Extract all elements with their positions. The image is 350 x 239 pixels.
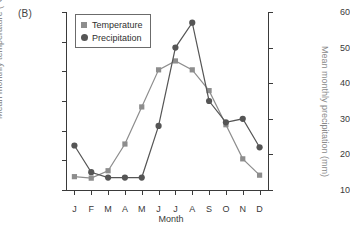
x-tick-label: N — [240, 204, 247, 214]
data-point-precipitation-M-2 — [105, 174, 111, 180]
y-tick-right — [269, 48, 273, 49]
y-tick-label-right: 20 — [340, 149, 350, 159]
x-tick-label: S — [206, 204, 212, 214]
legend-label-temperature: Temperature — [92, 20, 143, 30]
data-point-temperature-A-7 — [190, 67, 195, 72]
data-point-precipitation-F-1 — [88, 169, 94, 175]
x-tick — [159, 191, 160, 195]
chart-legend: Temperature Precipitation — [75, 14, 151, 48]
x-axis-title: Month — [0, 214, 342, 224]
x-tick — [192, 191, 193, 195]
y-tick-label-right: 50 — [340, 43, 350, 53]
x-tick-label: A — [189, 204, 195, 214]
y-tick-label-right: 60 — [340, 7, 350, 17]
panel-label: (B) — [18, 8, 32, 19]
x-tick-label: O — [222, 204, 229, 214]
y-tick-right — [269, 119, 273, 120]
legend-label-precipitation: Precipitation — [92, 33, 142, 43]
data-point-temperature-A-3 — [122, 141, 127, 146]
x-tick — [226, 191, 227, 195]
series-line-temperature — [74, 61, 259, 178]
x-tick-label: D — [256, 204, 263, 214]
x-tick — [108, 191, 109, 195]
x-tick-label: A — [122, 204, 128, 214]
data-point-temperature-J-5 — [156, 67, 161, 72]
x-tick — [142, 191, 143, 195]
square-marker-icon — [81, 22, 87, 28]
data-point-temperature-D-11 — [257, 173, 262, 178]
x-tick — [125, 191, 126, 195]
x-axis-line — [66, 190, 269, 191]
legend-item-temperature: Temperature — [81, 18, 143, 31]
y-tick-right — [269, 190, 273, 191]
y-axis-right-line — [268, 12, 269, 190]
x-tick — [209, 191, 210, 195]
data-point-precipitation-S-8 — [206, 98, 212, 104]
x-tick — [243, 191, 244, 195]
y-tick-label-right: 10 — [340, 185, 350, 195]
y-axis-left-title: Mean monthly temperature (°C) — [0, 0, 5, 119]
x-tick-label: J — [156, 204, 161, 214]
y-tick-right — [269, 12, 273, 13]
x-tick — [175, 191, 176, 195]
data-point-temperature-F-1 — [89, 176, 94, 181]
data-point-temperature-N-10 — [240, 156, 245, 161]
x-tick-label: J — [72, 204, 77, 214]
x-tick-label: M — [104, 204, 112, 214]
data-point-precipitation-M-4 — [139, 174, 145, 180]
data-point-temperature-J-0 — [72, 174, 77, 179]
x-tick — [91, 191, 92, 195]
data-point-temperature-J-6 — [173, 58, 178, 63]
x-tick-label: M — [138, 204, 146, 214]
data-point-temperature-M-4 — [139, 104, 144, 109]
circle-marker-icon — [81, 34, 88, 41]
y-tick-label-right: 40 — [340, 78, 350, 88]
data-point-temperature-M-2 — [105, 168, 110, 173]
y-axis-right-title: Mean monthly precipitation (mm) — [319, 46, 330, 166]
x-tick — [260, 191, 261, 195]
y-tick-left — [62, 190, 66, 191]
x-tick-label: F — [89, 204, 95, 214]
x-tick-label: J — [173, 204, 178, 214]
data-point-precipitation-J-0 — [71, 142, 77, 148]
data-point-precipitation-J-5 — [155, 123, 161, 129]
data-point-precipitation-D-11 — [256, 144, 262, 150]
y-tick-right — [269, 83, 273, 84]
y-tick-right — [269, 154, 273, 155]
data-point-precipitation-N-10 — [240, 116, 246, 122]
y-tick-label-right: 30 — [340, 114, 350, 124]
data-point-precipitation-O-9 — [223, 119, 229, 125]
data-point-precipitation-A-3 — [122, 174, 128, 180]
data-point-precipitation-A-7 — [189, 20, 195, 26]
x-tick — [74, 191, 75, 195]
data-point-precipitation-J-6 — [172, 45, 178, 51]
legend-item-precipitation: Precipitation — [81, 31, 143, 44]
